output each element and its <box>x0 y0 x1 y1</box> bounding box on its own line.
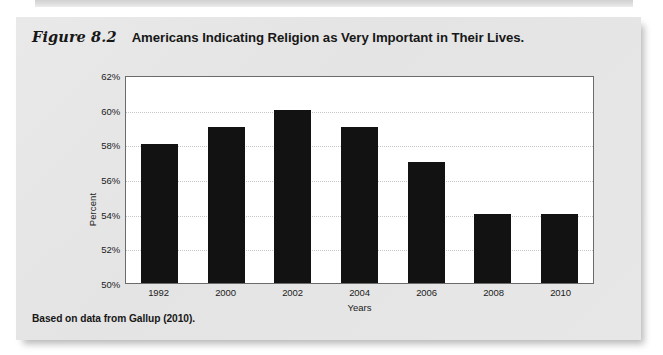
bar <box>208 127 245 283</box>
plot-area <box>125 76 594 284</box>
page-top-bleed-strip <box>35 0 633 7</box>
figure-source-note: Based on data from Gallup (2010). <box>32 313 195 324</box>
bar <box>274 110 311 283</box>
x-axis-tick-label: 1992 <box>140 287 177 298</box>
y-axis-tick-label: 56% <box>90 175 120 186</box>
x-axis-tick-label: 2006 <box>408 287 445 298</box>
y-axis-tick-label: 60% <box>90 105 120 116</box>
x-axis-title: Years <box>125 302 594 313</box>
x-axis-tick-label: 2004 <box>341 287 378 298</box>
bars-group <box>126 77 593 283</box>
bar <box>408 162 445 283</box>
y-axis-tick-label: 62% <box>90 71 120 82</box>
y-axis-tick-label: 58% <box>90 140 120 151</box>
figure-panel: Figure 8.2Americans Indicating Religion … <box>16 17 641 340</box>
y-axis-tick-labels: 50%52%54%56%58%60%62% <box>90 76 120 284</box>
bar <box>474 214 511 283</box>
bar <box>341 127 378 283</box>
y-axis-tick-label: 50% <box>90 279 120 290</box>
figure-caption-text: Americans Indicating Religion as Very Im… <box>132 30 525 45</box>
x-axis-tick-label: 2002 <box>274 287 311 298</box>
bar-chart: Percent 50%52%54%56%58%60%62% 1992200020… <box>16 61 641 311</box>
bar <box>541 214 578 283</box>
y-axis-tick-label: 52% <box>90 244 120 255</box>
figure-number: Figure 8.2 <box>32 28 117 45</box>
x-axis-tick-label: 2000 <box>207 287 244 298</box>
x-axis-tick-label: 2010 <box>542 287 579 298</box>
y-axis-tick-label: 54% <box>90 209 120 220</box>
figure-title: Figure 8.2Americans Indicating Religion … <box>32 28 524 46</box>
bar <box>141 144 178 283</box>
x-axis-tick-labels: 1992200020022004200620082010 <box>125 287 594 298</box>
x-axis-tick-label: 2008 <box>475 287 512 298</box>
